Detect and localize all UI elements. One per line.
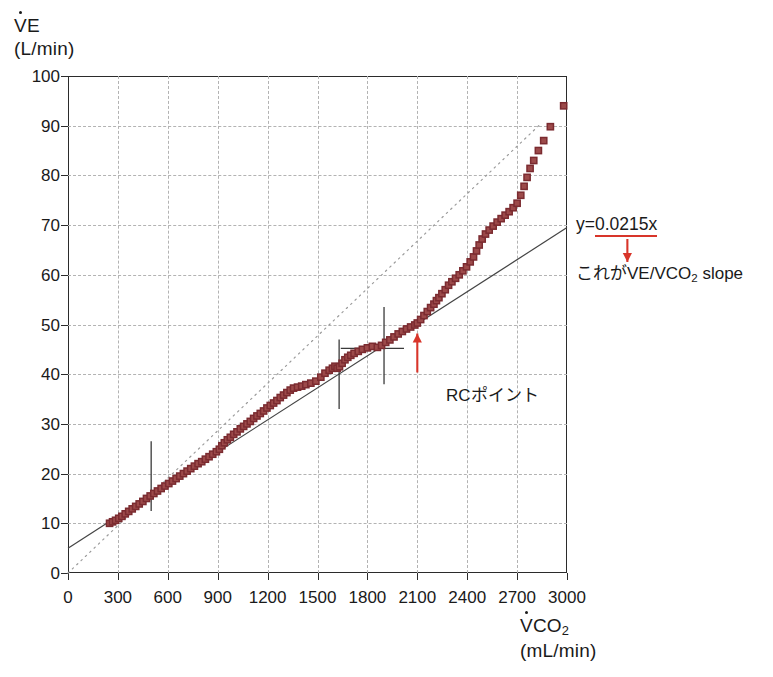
red-arrow-group — [0, 0, 773, 677]
equation-down-arrow-head — [623, 253, 632, 262]
chart-canvas: VE(L/min) VCO2(mL/min) 10090807060504030… — [0, 0, 773, 677]
rc-point-up-arrow-head — [413, 334, 422, 343]
